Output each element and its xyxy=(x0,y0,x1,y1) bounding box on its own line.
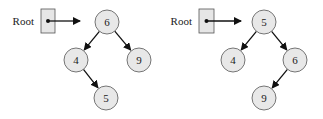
tree-node: 5 xyxy=(94,86,118,110)
root-label: Root xyxy=(13,15,34,27)
node-value: 6 xyxy=(292,54,298,66)
node-value: 9 xyxy=(136,54,142,66)
tree-node: 6 xyxy=(95,10,119,34)
tree-node: 4 xyxy=(64,48,88,72)
binary-tree-diagram: Root6495 Root5469 xyxy=(0,0,323,119)
tree-before: Root6495 xyxy=(13,9,151,110)
node-value: 6 xyxy=(104,16,110,28)
node-value: 5 xyxy=(103,92,109,104)
tree-edge-arrow xyxy=(272,31,287,50)
node-value: 4 xyxy=(230,54,236,66)
node-value: 9 xyxy=(261,92,267,104)
tree-edge-arrow xyxy=(83,69,98,87)
tree-edge-arrow xyxy=(84,31,99,50)
tree-node: 6 xyxy=(283,48,307,72)
tree-node: 9 xyxy=(252,86,276,110)
tree-edge-arrow xyxy=(241,31,256,50)
node-value: 4 xyxy=(73,54,79,66)
node-value: 5 xyxy=(261,16,267,28)
tree-edge-arrow xyxy=(272,69,287,88)
tree-node: 5 xyxy=(252,10,276,34)
tree-after: Root5469 xyxy=(171,9,307,110)
tree-node: 4 xyxy=(221,48,245,72)
root-label: Root xyxy=(171,15,192,27)
tree-node: 9 xyxy=(127,48,151,72)
tree-edge-arrow xyxy=(115,31,131,50)
